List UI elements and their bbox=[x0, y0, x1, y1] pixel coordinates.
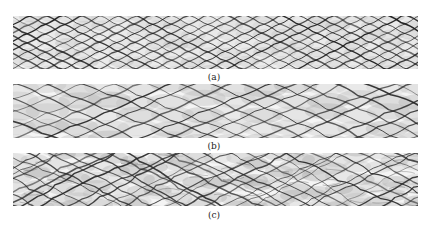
caption-a: (a) bbox=[0, 72, 428, 82]
panel-b bbox=[13, 84, 418, 138]
cell-pattern-b bbox=[13, 84, 418, 138]
cell-pattern-c bbox=[13, 153, 418, 206]
cell-pattern-a bbox=[13, 16, 418, 69]
panel-c bbox=[13, 153, 418, 206]
caption-c: (c) bbox=[0, 210, 428, 220]
panel-a bbox=[13, 16, 418, 69]
caption-b: (b) bbox=[0, 141, 428, 151]
